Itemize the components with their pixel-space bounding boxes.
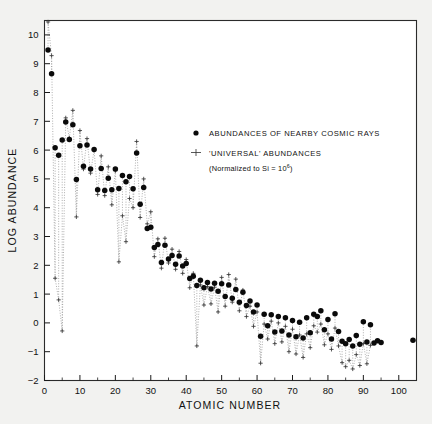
cosmic-ray-point bbox=[201, 285, 207, 291]
cosmic-ray-point bbox=[329, 336, 335, 342]
cosmic-ray-point bbox=[240, 290, 246, 296]
cosmic-ray-point bbox=[134, 150, 140, 156]
cosmic-ray-point bbox=[290, 318, 296, 324]
cosmic-ray-point bbox=[361, 319, 367, 325]
cosmic-ray-point bbox=[258, 333, 264, 339]
cosmic-ray-point bbox=[191, 273, 197, 279]
y-tick-label: 7 bbox=[33, 116, 38, 127]
cosmic-ray-point bbox=[272, 329, 278, 335]
y-tick-label: 10 bbox=[28, 29, 39, 40]
cosmic-ray-point bbox=[116, 186, 122, 192]
legend-note-prefix: (Normalized to Si = 10 bbox=[209, 164, 287, 173]
cosmic-ray-point bbox=[268, 312, 274, 318]
cosmic-ray-point bbox=[95, 187, 101, 193]
legend-marker-cosmic-rays bbox=[193, 130, 198, 135]
cosmic-ray-point bbox=[283, 315, 289, 321]
cosmic-ray-point bbox=[91, 147, 97, 153]
cosmic-ray-point bbox=[162, 242, 168, 248]
cosmic-ray-point bbox=[169, 253, 175, 259]
cosmic-ray-point bbox=[52, 145, 58, 151]
cosmic-ray-point bbox=[357, 341, 363, 347]
cosmic-ray-point bbox=[354, 333, 360, 339]
x-tick-label: 90 bbox=[358, 385, 369, 396]
cosmic-ray-point bbox=[219, 281, 225, 287]
y-tick-label: 3 bbox=[33, 231, 38, 242]
cosmic-ray-point bbox=[304, 315, 310, 321]
cosmic-ray-point bbox=[230, 295, 236, 301]
cosmic-ray-point bbox=[350, 343, 356, 349]
cosmic-ray-point bbox=[49, 71, 55, 77]
cosmic-ray-point bbox=[173, 261, 179, 267]
cosmic-ray-point bbox=[88, 166, 94, 172]
cosmic-ray-point bbox=[205, 280, 211, 286]
cosmic-ray-point bbox=[59, 137, 65, 143]
plot-frame bbox=[45, 21, 417, 381]
cosmic-ray-point bbox=[293, 334, 299, 340]
cosmic-ray-point bbox=[251, 309, 257, 315]
cosmic-ray-point bbox=[127, 174, 133, 180]
cosmic-ray-point bbox=[109, 187, 115, 193]
figure-container: 0102030405060708090100 −2−1012345678910 … bbox=[0, 0, 432, 424]
legend-label-universal: 'UNIVERSAL' ABUNDANCES bbox=[209, 149, 321, 158]
cosmic-ray-point bbox=[45, 47, 51, 53]
y-tick-label: 5 bbox=[33, 173, 38, 184]
cosmic-ray-point bbox=[233, 287, 239, 293]
legend-note-suffix: ) bbox=[290, 164, 293, 173]
cosmic-ray-point bbox=[378, 340, 384, 346]
y-tick-label: 6 bbox=[33, 145, 38, 156]
x-axis-title: ATOMIC NUMBER bbox=[179, 399, 282, 411]
x-tick-label: 80 bbox=[323, 385, 334, 396]
cosmic-ray-point bbox=[332, 311, 338, 317]
cosmic-ray-point bbox=[222, 294, 228, 300]
cosmic-ray-point bbox=[325, 317, 331, 323]
x-tick-label: 40 bbox=[181, 385, 192, 396]
cosmic-ray-point bbox=[315, 314, 321, 320]
cosmic-ray-point bbox=[81, 163, 87, 169]
y-tick-label: 2 bbox=[33, 260, 38, 271]
cosmic-ray-point bbox=[261, 312, 267, 318]
cosmic-ray-point bbox=[194, 283, 200, 289]
x-tick-label: 50 bbox=[216, 385, 227, 396]
cosmic-ray-point bbox=[322, 327, 328, 333]
cosmic-ray-point bbox=[56, 153, 62, 159]
x-tick-label: 60 bbox=[252, 385, 263, 396]
cosmic-ray-point bbox=[368, 322, 374, 328]
cosmic-ray-point bbox=[215, 288, 221, 294]
cosmic-ray-point bbox=[98, 166, 104, 172]
cosmic-ray-point bbox=[237, 299, 243, 305]
cosmic-ray-point bbox=[254, 302, 260, 308]
cosmic-ray-point bbox=[265, 323, 271, 329]
cosmic-ray-point bbox=[102, 188, 108, 194]
cosmic-ray-point bbox=[123, 179, 129, 185]
cosmic-ray-point bbox=[364, 339, 370, 345]
x-tick-label: 10 bbox=[75, 385, 86, 396]
cosmic-ray-point bbox=[208, 286, 214, 292]
y-tick-label: 4 bbox=[33, 202, 38, 213]
legend-normalization-note: (Normalized to Si = 106) bbox=[209, 163, 293, 173]
cosmic-ray-point bbox=[286, 332, 292, 338]
cosmic-ray-point bbox=[77, 143, 83, 149]
x-tick-label: 20 bbox=[110, 385, 121, 396]
cosmic-ray-point bbox=[346, 337, 352, 343]
cosmic-ray-point bbox=[276, 314, 282, 320]
cosmic-ray-point bbox=[410, 337, 416, 343]
y-tick-label: −1 bbox=[28, 346, 39, 357]
cosmic-ray-point bbox=[63, 119, 69, 125]
cosmic-ray-point bbox=[226, 282, 232, 288]
cosmic-ray-point bbox=[198, 278, 204, 284]
cosmic-ray-point bbox=[113, 166, 119, 172]
y-axis-title: LOG ABUNDANCE bbox=[6, 148, 18, 253]
x-tick-label: 100 bbox=[391, 385, 407, 396]
y-tick-label: 0 bbox=[33, 317, 38, 328]
legend-label-cosmic-rays: ABUNDANCES OF NEARBY COSMIC RAYS bbox=[209, 129, 380, 138]
y-tick-label: 1 bbox=[33, 289, 38, 300]
cosmic-ray-point bbox=[84, 142, 90, 148]
y-tick-label: 9 bbox=[33, 58, 38, 69]
cosmic-ray-point bbox=[307, 330, 313, 336]
cosmic-ray-point bbox=[137, 201, 143, 207]
cosmic-ray-point bbox=[74, 177, 80, 183]
cosmic-ray-point bbox=[141, 185, 147, 191]
x-tick-label: 70 bbox=[287, 385, 298, 396]
cosmic-ray-point bbox=[70, 122, 76, 128]
cosmic-ray-point bbox=[183, 261, 189, 267]
